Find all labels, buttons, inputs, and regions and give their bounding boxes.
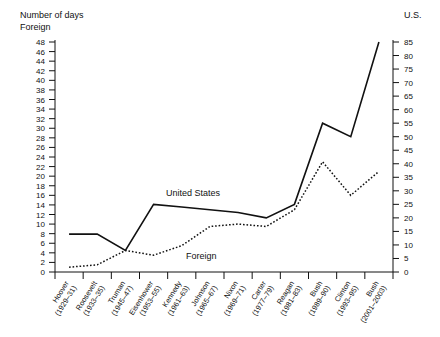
- y-tick-label-left: 30: [36, 124, 45, 133]
- y-tick-label-right: 75: [404, 65, 413, 74]
- y-tick-label-left: 16: [36, 191, 45, 200]
- y-tick-label-right: 40: [404, 160, 413, 169]
- series-line-united-states: [69, 42, 379, 250]
- x-axis-category-labels: Hoover(1929–31)Roosevelt(1933–35)Truman(…: [45, 279, 388, 325]
- y-tick-label-right: 60: [404, 106, 413, 115]
- y-tick-label-left: 32: [36, 115, 45, 124]
- y-axis-right-ticks: 0510152025303540455055606570758085: [393, 38, 413, 277]
- y-tick-label-right: 50: [404, 133, 413, 142]
- y-axis-left-ticks: 0246810121416182022242628303234363840424…: [36, 38, 55, 277]
- y-tick-label-left: 20: [36, 172, 45, 181]
- chart-figure: Number of days Foreign U.S. 024681012141…: [0, 0, 440, 337]
- x-axis-label-group: Kennedy(1961–63): [158, 279, 191, 317]
- y-tick-label-left: 36: [36, 96, 45, 105]
- y-tick-label-left: 42: [36, 67, 45, 76]
- y-tick-label-left: 8: [41, 230, 46, 239]
- x-axis-label-group: Eisenhower(1953–55): [127, 279, 163, 322]
- y-tick-label-left: 44: [36, 57, 45, 66]
- y-tick-label-left: 12: [36, 211, 45, 220]
- x-axis-label-group: Nixon(1969–71): [214, 279, 247, 317]
- y-tick-label-right: 10: [404, 241, 413, 250]
- x-axis-label-group: Clinton(1993–95): [327, 279, 360, 317]
- x-axis-label-group: Bush(2001–2003): [351, 279, 388, 324]
- series-line-foreign: [69, 162, 379, 267]
- y-tick-label-right: 15: [404, 227, 413, 236]
- y-tick-label-right: 35: [404, 173, 413, 182]
- y-tick-label-left: 14: [36, 201, 45, 210]
- y-tick-label-right: 30: [404, 187, 413, 196]
- y-tick-label-left: 28: [36, 134, 45, 143]
- x-axis-label-group: Reagan(1981–83): [271, 279, 304, 317]
- x-axis-label-group: Roosevelt(1933–35): [73, 279, 106, 317]
- y-tick-label-right: 55: [404, 119, 413, 128]
- y-tick-label-left: 4: [41, 249, 46, 258]
- y-tick-label-right: 45: [404, 146, 413, 155]
- y-tick-label-left: 2: [41, 258, 46, 267]
- y-tick-label-right: 65: [404, 92, 413, 101]
- x-axis-ticks: [55, 272, 393, 279]
- left-axis-heading-line2: Foreign: [20, 22, 51, 32]
- y-tick-label-right: 5: [404, 254, 409, 263]
- y-tick-label-right: 85: [404, 38, 413, 47]
- y-tick-label-left: 10: [36, 220, 45, 229]
- y-tick-label-right: 0: [404, 268, 409, 277]
- x-axis-label-group: Carter(1977–79): [242, 279, 275, 318]
- y-tick-label-right: 25: [404, 200, 413, 209]
- x-axis-label-group: Bush(1989–90): [299, 279, 332, 317]
- y-tick-label-right: 70: [404, 79, 413, 88]
- line-chart: Number of days Foreign U.S. 024681012141…: [0, 0, 440, 337]
- y-tick-label-left: 24: [36, 153, 45, 162]
- left-axis-heading-line1: Number of days: [20, 10, 84, 20]
- annotation-united-states: United States: [166, 188, 221, 198]
- y-tick-label-left: 34: [36, 105, 45, 114]
- y-tick-label-left: 46: [36, 48, 45, 57]
- y-tick-label-right: 80: [404, 52, 413, 61]
- x-axis-label-group: Hoover(1929–31): [45, 279, 78, 318]
- y-tick-label-left: 26: [36, 143, 45, 152]
- y-tick-label-left: 22: [36, 163, 45, 172]
- y-tick-label-left: 18: [36, 182, 45, 191]
- y-tick-label-left: 6: [41, 239, 46, 248]
- right-axis-heading: U.S.: [404, 10, 422, 20]
- y-tick-label-left: 48: [36, 38, 45, 47]
- y-tick-label-right: 20: [404, 214, 413, 223]
- y-tick-label-left: 0: [41, 268, 46, 277]
- y-tick-label-left: 40: [36, 76, 45, 85]
- x-axis-label-group: Johnson(1965–67): [186, 279, 219, 317]
- y-tick-label-left: 38: [36, 86, 45, 95]
- annotation-foreign: Foreign: [186, 251, 217, 261]
